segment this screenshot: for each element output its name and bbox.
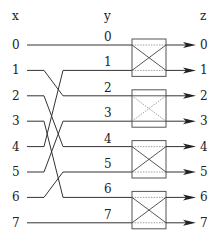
- header-y: y: [103, 9, 111, 23]
- z-label: 2: [200, 89, 208, 103]
- header-x: x: [12, 9, 19, 23]
- exchange-switch: [132, 191, 166, 228]
- exchange-switch: [132, 141, 166, 178]
- shuffle-wire: [27, 70, 132, 95]
- x-label: 4: [12, 140, 20, 154]
- x-label: 7: [12, 216, 20, 230]
- shuffle-wire: [27, 70, 132, 146]
- x-labels: 01234567: [12, 38, 20, 230]
- x-label: 6: [12, 190, 20, 204]
- header-z: z: [200, 9, 206, 23]
- shuffle-wire: [27, 121, 132, 197]
- y-label: 7: [104, 208, 112, 222]
- z-label: 3: [200, 114, 208, 128]
- x-label: 5: [12, 165, 20, 179]
- y-label: 6: [104, 182, 112, 196]
- z-label: 6: [200, 190, 208, 204]
- output-arrows: [166, 42, 196, 226]
- y-labels: 01234567: [104, 30, 112, 222]
- y-label: 0: [104, 30, 112, 44]
- x-label: 1: [12, 63, 20, 77]
- y-label: 2: [104, 81, 112, 95]
- y-label: 5: [104, 157, 112, 171]
- shuffle-exchange-network-diagram: x y z 01234567 01234567 01234567: [0, 0, 218, 241]
- shuffle-wires: [27, 45, 132, 223]
- z-label: 5: [200, 165, 208, 179]
- shuffle-wire: [27, 172, 132, 197]
- x-label: 0: [12, 38, 20, 52]
- y-label: 1: [104, 55, 112, 69]
- z-label: 7: [200, 216, 208, 230]
- exchange-switches: [132, 39, 166, 229]
- y-label: 4: [104, 132, 112, 146]
- x-label: 2: [12, 89, 20, 103]
- z-label: 1: [200, 63, 208, 77]
- z-label: 0: [200, 38, 208, 52]
- z-labels: 01234567: [200, 38, 208, 230]
- y-label: 3: [104, 106, 112, 120]
- z-label: 4: [200, 140, 208, 154]
- x-label: 3: [12, 114, 20, 128]
- exchange-switch: [132, 90, 166, 127]
- exchange-switch: [132, 39, 166, 76]
